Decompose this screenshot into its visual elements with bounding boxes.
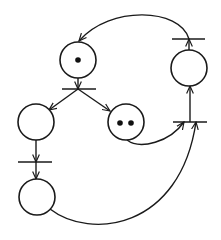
- token-icon: [128, 120, 134, 126]
- arc-t1-to-p3: [78, 89, 110, 111]
- arc-t1-to-p2: [49, 89, 78, 110]
- arc-t4-to-p1: [79, 15, 189, 41]
- token-icon: [117, 120, 123, 126]
- petri-net-diagram: [0, 0, 221, 240]
- token-icon: [75, 57, 81, 63]
- place-p3: [108, 104, 144, 140]
- place-p4: [19, 179, 55, 215]
- place-p5: [171, 50, 207, 86]
- diagram-svg: [0, 0, 221, 240]
- place-p2: [18, 104, 54, 140]
